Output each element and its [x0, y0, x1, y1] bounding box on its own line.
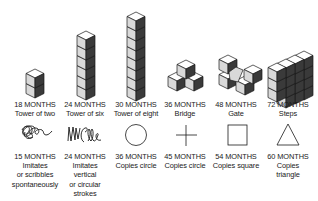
milestone-description-line: Imitates	[8, 161, 62, 170]
milestone-label-block-2: 24 MONTHS Tower of six	[58, 100, 112, 118]
tower-of-six-icon	[77, 31, 95, 100]
milestone-description-line: Copies	[261, 161, 315, 170]
milestone-label-drawing-6: 60 MONTHS Copies triangle	[261, 152, 315, 180]
age-label: 36 MONTHS	[158, 100, 212, 109]
milestone-description: Tower of two	[8, 109, 62, 118]
age-label: 36 MONTHS	[109, 152, 163, 161]
milestone-label-drawing-3: 36 MONTHS Copies circle	[109, 152, 163, 170]
milestone-label-block-4: 36 MONTHS Bridge	[158, 100, 212, 118]
milestone-description-line: Imitates	[58, 161, 112, 170]
milestone-label-drawing-2: 24 MONTHS Imitates vertical or circular …	[58, 152, 112, 198]
cross-icon	[176, 125, 197, 146]
milestone-label-block-5: 48 MONTHS Gate	[209, 100, 263, 118]
milestone-label-drawing-4: 45 MONTHS Copies circle	[158, 152, 212, 170]
milestone-description: Bridge	[158, 109, 212, 118]
milestone-label-block-3: 30 MONTHS Tower of eight	[109, 100, 163, 118]
age-label: 15 MONTHS	[8, 152, 62, 161]
age-label: 18 MONTHS	[8, 100, 62, 109]
vertical-circular-strokes-icon	[68, 127, 101, 142]
gate-icon	[219, 55, 262, 95]
age-label: 24 MONTHS	[58, 100, 112, 109]
milestone-description-line: strokes	[58, 189, 112, 198]
square-icon	[228, 125, 247, 145]
milestone-description-line: Copies circle	[109, 161, 163, 170]
milestone-description-line: spontaneously	[8, 180, 62, 189]
age-label: 48 MONTHS	[209, 100, 263, 109]
milestone-label-drawing-5: 54 MONTHS Copies square	[209, 152, 263, 170]
milestone-description-line: vertical	[58, 170, 112, 179]
age-label: 24 MONTHS	[58, 152, 112, 161]
milestone-description: Steps	[261, 109, 315, 118]
age-label: 72 MONTHS	[261, 100, 315, 109]
tower-of-eight-icon	[127, 12, 145, 101]
milestone-description-line: or scribbles	[8, 170, 62, 179]
milestone-description-line: triangle	[261, 170, 315, 179]
milestone-description: Gate	[209, 109, 263, 118]
milestone-description-line: or circular	[58, 180, 112, 189]
circle-icon	[126, 125, 147, 146]
age-label: 30 MONTHS	[109, 100, 163, 109]
triangle-icon	[277, 124, 299, 145]
bridge-icon	[168, 60, 203, 91]
milestone-label-drawing-1: 15 MONTHS Imitates or scribbles spontane…	[8, 152, 62, 189]
milestone-description: Tower of eight	[109, 109, 163, 118]
milestone-label-block-6: 72 MONTHS Steps	[261, 100, 315, 118]
milestone-description-line: Copies circle	[158, 161, 212, 170]
age-label: 45 MONTHS	[158, 152, 212, 161]
milestone-description: Tower of six	[58, 109, 112, 118]
age-label: 60 MONTHS	[261, 152, 315, 161]
milestone-label-block-1: 18 MONTHS Tower of two	[8, 100, 62, 118]
age-label: 54 MONTHS	[209, 152, 263, 161]
milestone-description-line: Copies square	[209, 161, 263, 170]
scribble-icon	[22, 126, 52, 139]
tower-of-two-icon	[26, 69, 44, 98]
